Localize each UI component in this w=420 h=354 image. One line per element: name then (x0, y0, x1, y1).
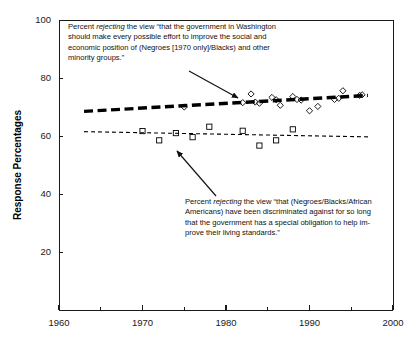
chart-figure: 20406080100 19601970198019902000 Respons… (0, 0, 420, 354)
x-axis: 19601970198019902000 (48, 305, 403, 328)
data-point-square (207, 124, 212, 129)
annotation-line: prove their living standards.” (185, 228, 381, 238)
data-point-diamond (306, 108, 312, 114)
data-point-square (274, 138, 279, 143)
annotation-line: economic position of (Negroes [1970 only… (68, 43, 300, 53)
y-tick-label: 20 (40, 246, 51, 257)
x-tick-label: 1980 (215, 317, 236, 328)
annotation-arrows (177, 71, 238, 196)
y-tick-label: 40 (40, 188, 51, 199)
annotation-lower-series: Percent rejecting the view “that (Negroe… (185, 197, 381, 239)
annotation-line: Americans) have been discriminated again… (185, 207, 381, 217)
y-tick-label: 80 (40, 72, 51, 83)
annotation-line: minority groups.” (68, 53, 300, 63)
y-tick-label: 100 (35, 14, 51, 25)
data-point-diamond (315, 103, 321, 109)
x-tick-label: 1960 (48, 317, 69, 328)
data-point-square (257, 143, 262, 148)
annotation-line: Percent rejecting the view “that (Negroe… (185, 197, 381, 207)
data-point-diamond (248, 91, 254, 97)
annotation-line: Percent rejecting the view “that the gov… (68, 22, 300, 32)
data-point-square (290, 127, 295, 132)
arrow-upper (189, 71, 238, 98)
y-tick-label: 60 (40, 130, 51, 141)
data-point-square (157, 138, 162, 143)
x-tick-label: 1990 (299, 317, 320, 328)
x-tick-label: 1970 (132, 317, 153, 328)
data-point-square (190, 135, 195, 140)
data-point-diamond (340, 88, 346, 94)
data-point-diamond (277, 102, 283, 108)
y-axis-title: Response Percentages (12, 110, 23, 220)
annotation-line: should make every possible effort to imp… (68, 32, 300, 42)
trendline-lower (84, 132, 368, 137)
annotation-upper-series: Percent rejecting the view “that the gov… (68, 22, 300, 64)
data-series-group (84, 88, 368, 149)
x-tick-label: 2000 (382, 317, 403, 328)
data-point-square (240, 128, 245, 133)
arrow-lower (177, 151, 216, 196)
annotation-line: that the government has a special obliga… (185, 218, 381, 228)
trendline-upper (84, 95, 368, 111)
